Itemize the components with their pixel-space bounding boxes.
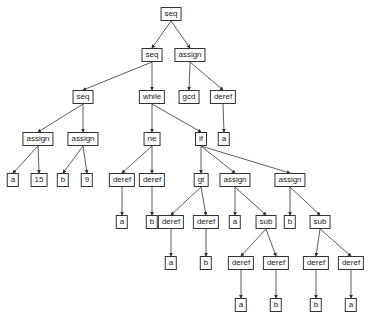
tree-edge	[83, 146, 87, 173]
tree-node-assign: assign	[67, 132, 98, 146]
tree-node-a: a	[116, 215, 128, 229]
tree-edge	[223, 104, 224, 132]
tree-edge	[152, 21, 171, 48]
tree-edge	[38, 146, 39, 173]
tree-edge	[38, 104, 83, 132]
tree-node-assign: assign	[174, 48, 205, 62]
tree-node-a: a	[229, 215, 241, 229]
tree-node-a: a	[218, 132, 230, 146]
tree-edge	[201, 187, 206, 215]
tree-edge	[266, 229, 276, 256]
tree-node-b: b	[284, 215, 296, 229]
tree-edge	[171, 187, 201, 215]
tree-node-b: b	[270, 298, 282, 312]
tree-edge	[83, 62, 152, 90]
tree-node-sub: sub	[310, 215, 331, 229]
tree-node-deref: deref	[303, 256, 329, 270]
tree-node-deref: deref	[338, 256, 364, 270]
tree-edge	[201, 146, 290, 173]
tree-node-ne: ne	[144, 132, 161, 146]
tree-edge	[201, 146, 235, 173]
tree-node-if: if	[195, 132, 207, 146]
tree-edge	[13, 146, 38, 173]
tree-node-deref: deref	[263, 256, 289, 270]
tree-node-gcd: gcd	[179, 90, 200, 104]
tree-node-9: 9	[81, 173, 93, 187]
tree-node-deref: deref	[109, 173, 135, 187]
tree-node-deref: deref	[228, 256, 254, 270]
tree-node-b: b	[146, 215, 158, 229]
tree-edge	[241, 229, 266, 256]
tree-node-assign: assign	[22, 132, 53, 146]
tree-node-deref: deref	[139, 173, 165, 187]
tree-edge	[316, 229, 320, 256]
tree-edge	[63, 146, 83, 173]
tree-node-deref: deref	[193, 215, 219, 229]
tree-node-seq: seq	[142, 48, 163, 62]
tree-edge	[152, 104, 201, 132]
tree-edge	[189, 62, 190, 90]
tree-edge	[190, 62, 223, 90]
tree-node-assign: assign	[219, 173, 250, 187]
tree-node-a: a	[7, 173, 19, 187]
tree-edge	[122, 146, 152, 173]
tree-node-a: a	[235, 298, 247, 312]
tree-node-b: b	[200, 256, 212, 270]
tree-node-deref: deref	[210, 90, 236, 104]
tree-node-assign: assign	[274, 173, 305, 187]
tree-node-deref: deref	[158, 215, 184, 229]
tree-node-seq: seq	[73, 90, 94, 104]
tree-node-b: b	[310, 298, 322, 312]
tree-edge	[171, 21, 190, 48]
tree-node-gt: gt	[194, 173, 209, 187]
tree-node-sub: sub	[256, 215, 277, 229]
tree-node-while: while	[139, 90, 165, 104]
tree-node-15: 15	[31, 173, 48, 187]
tree-edge	[235, 187, 266, 215]
tree-node-b: b	[57, 173, 69, 187]
tree-node-seq: seq	[161, 7, 182, 21]
tree-edge	[290, 187, 320, 215]
tree-node-a: a	[345, 298, 357, 312]
tree-edge	[320, 229, 351, 256]
tree-node-a: a	[165, 256, 177, 270]
